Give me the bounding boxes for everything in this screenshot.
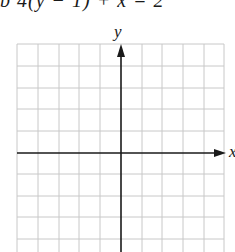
y-axis-arrow-icon <box>117 44 125 57</box>
axes <box>17 44 226 252</box>
coordinate-grid <box>0 0 235 252</box>
